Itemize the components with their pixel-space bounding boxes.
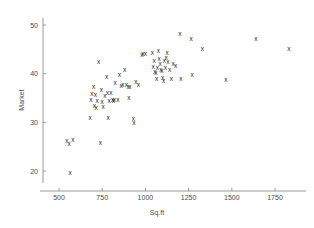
data-point-marker: x [95,104,99,111]
data-points-layer: xxxxxxxxxxxxxxxxxxxxxxxxxxxxxxxxxxxxxxxx… [65,30,291,176]
data-point-marker: x [165,49,169,56]
data-point-marker: x [170,75,174,82]
data-point-marker: x [132,119,136,126]
y-axis-title: Market [18,89,25,110]
data-point-marker: x [157,47,161,54]
data-point-marker: x [105,73,109,80]
data-point-marker: x [144,50,148,57]
y-axis-tick-label: 30 [30,119,38,126]
data-point-marker: x [92,83,96,90]
data-point-marker: x [190,35,194,42]
scatter-plot-figure: 5007501000125015001750 20304050 xxxxxxxx… [0,0,314,228]
data-point-marker: x [95,97,99,104]
data-point-marker: x [114,79,118,86]
y-axis-tick-label: 50 [30,22,38,29]
data-point-marker: x [151,49,155,56]
data-point-marker: x [97,58,101,65]
data-point-marker: x [118,71,122,78]
x-axis-tick-label: 500 [53,194,65,201]
data-point-marker: x [71,136,75,143]
y-axis-tick-label: 40 [30,70,38,77]
data-point-marker: x [123,66,127,73]
x-axis-tick-label: 1250 [181,194,197,201]
data-point-marker: x [224,76,228,83]
data-point-marker: x [127,94,131,101]
x-axis-tick-label: 750 [96,194,108,201]
x-axis-title: Sq.ft [150,209,164,217]
y-axis: 20304050 [30,18,46,183]
data-point-marker: x [101,103,105,110]
data-point-marker: x [88,114,92,121]
x-axis-tick-label: 1000 [138,194,154,201]
data-point-marker: x [162,77,166,84]
x-axis-tick-label: 1500 [224,194,240,201]
data-point-marker: x [99,139,103,146]
data-point-marker: x [69,169,73,176]
data-point-marker: x [155,75,159,82]
data-point-marker: x [190,71,194,78]
scatter-plot-canvas: 5007501000125015001750 20304050 xxxxxxxx… [0,0,314,228]
data-point-marker: x [166,58,170,65]
data-point-marker: x [178,30,182,37]
data-point-marker: x [201,45,205,52]
data-point-marker: x [287,45,291,52]
data-point-marker: x [107,114,111,121]
x-axis-tick-label: 1750 [267,194,283,201]
y-axis-tick-label: 20 [30,168,38,175]
data-point-marker: x [179,75,183,82]
data-point-marker: x [128,83,132,90]
data-point-marker: x [168,66,172,73]
data-point-marker: x [116,96,120,103]
data-point-marker: x [174,62,178,69]
x-axis: 5007501000125015001750 [40,188,306,201]
data-point-marker: x [254,35,258,42]
data-point-marker: x [137,81,141,88]
